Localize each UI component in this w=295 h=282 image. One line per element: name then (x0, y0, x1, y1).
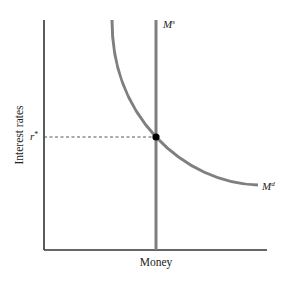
ms-label: Ms (162, 18, 175, 30)
md-label: Md (261, 180, 275, 192)
money-demand-curve (112, 20, 258, 185)
money-market-chart: Ms Md r* Money Interest rates (0, 0, 295, 282)
x-axis-label: Money (140, 256, 173, 269)
y-axis-label: Interest rates (13, 105, 25, 165)
equilibrium-point (152, 133, 159, 140)
r-star-label: r* (30, 130, 38, 142)
